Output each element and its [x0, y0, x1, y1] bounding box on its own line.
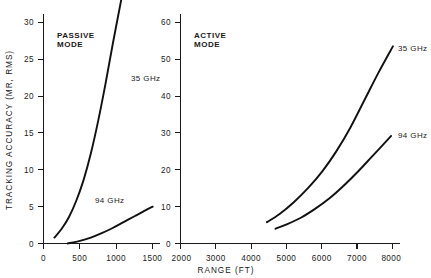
left-y-tick-label-25: 25 [24, 55, 34, 64]
right-x-tick-label-2000: 2000 [172, 254, 192, 263]
active-mode-label-line1: ACTIVE [194, 31, 227, 40]
right-series-label-94ghz: 94 GHz [398, 131, 428, 140]
left-y-tick-label-30: 30 [24, 18, 34, 27]
right-x-ticks [181, 244, 393, 250]
right-x-tick-label-3000: 3000 [206, 254, 226, 263]
right-panel: 0 10 20 30 40 50 60 2000 3000 4000 5000 … [161, 14, 427, 275]
right-x-tick-label-4000: 4000 [241, 254, 261, 263]
right-x-tick-label-8000: 8000 [381, 254, 401, 263]
chart-figure: 0 5 10 15 20 25 30 0 500 1000 1500 TRACK… [0, 0, 431, 278]
left-x-tick-label-0: 0 [41, 254, 46, 263]
passive-mode-label-line2: MODE [57, 40, 83, 49]
right-curve-35ghz [267, 46, 393, 222]
left-y-tick-label-5: 5 [29, 203, 34, 212]
left-x-tick-label-500: 500 [72, 254, 87, 263]
right-curve-94ghz [275, 136, 391, 229]
right-y-tick-label-20: 20 [161, 166, 171, 175]
left-series-label-35ghz: 35 GHz [131, 74, 161, 83]
right-y-ticks [175, 22, 181, 243]
right-y-tick-label-60: 60 [161, 18, 171, 27]
right-y-tick-label-30: 30 [161, 129, 171, 138]
y-axis-title: TRACKING ACCURACY (MR, RMS) [5, 50, 14, 210]
right-x-tick-label-5000: 5000 [276, 254, 296, 263]
x-axis-title: RANGE (FT) [198, 266, 255, 275]
left-x-tick-label-1500: 1500 [142, 254, 162, 263]
right-y-tick-label-40: 40 [161, 92, 171, 101]
left-panel: 0 5 10 15 20 25 30 0 500 1000 1500 TRACK… [5, 0, 162, 263]
left-x-tick-label-1000: 1000 [106, 254, 126, 263]
right-y-tick-label-0: 0 [166, 240, 171, 249]
left-y-tick-label-0: 0 [29, 240, 34, 249]
left-x-ticks [44, 244, 153, 250]
left-y-tick-label-20: 20 [24, 92, 34, 101]
left-series-label-94ghz: 94 GHz [95, 196, 125, 205]
right-series-label-35ghz: 35 GHz [398, 44, 428, 53]
left-y-tick-label-10: 10 [24, 166, 34, 175]
right-x-tick-label-6000: 6000 [312, 254, 332, 263]
left-curve-94ghz [68, 207, 153, 244]
figure-canvas: 0 5 10 15 20 25 30 0 500 1000 1500 TRACK… [0, 0, 431, 278]
passive-mode-label-line1: PASSIVE [57, 31, 95, 40]
active-mode-label-line2: MODE [194, 40, 220, 49]
right-x-tick-label-7000: 7000 [347, 254, 367, 263]
right-y-tick-label-10: 10 [161, 203, 171, 212]
left-y-ticks [38, 22, 44, 243]
left-y-tick-label-15: 15 [24, 129, 34, 138]
right-y-tick-label-50: 50 [161, 55, 171, 64]
